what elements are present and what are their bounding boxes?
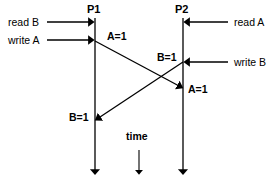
diagram-canvas: P1 P2 read B write A read A write B A=1 … <box>0 0 276 184</box>
process-label-p2: P2 <box>175 4 188 15</box>
event-label-write-a: write A <box>8 35 40 46</box>
value-label-a1-source: A=1 <box>107 31 127 42</box>
value-label-a1-target: A=1 <box>188 84 208 95</box>
time-axis-label: time <box>126 131 148 142</box>
message-arrow-b-equals-1 <box>97 62 183 119</box>
value-label-b1-target: B=1 <box>69 112 89 123</box>
event-label-write-b: write B <box>234 57 266 68</box>
event-label-read-b: read B <box>8 17 39 28</box>
process-label-p1: P1 <box>87 4 100 15</box>
value-label-b1-source: B=1 <box>157 52 177 63</box>
message-arrow-a-equals-1 <box>95 41 181 87</box>
event-label-read-a: read A <box>234 17 264 28</box>
